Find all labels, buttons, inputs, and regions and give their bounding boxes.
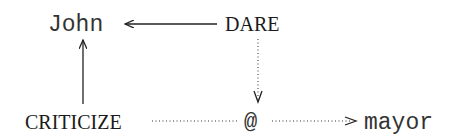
node-dare: DARE — [225, 13, 279, 35]
node-criticize: CRITICIZE — [25, 111, 122, 133]
node-john: John — [48, 12, 103, 38]
arrowhead-down-icon — [254, 91, 262, 102]
arrowhead-right-icon — [345, 117, 356, 125]
dependency-diagram: John DARE CRITICIZE @ mayor — [0, 0, 469, 140]
node-mayor: mayor — [364, 110, 433, 136]
node-at: @ — [244, 110, 257, 135]
